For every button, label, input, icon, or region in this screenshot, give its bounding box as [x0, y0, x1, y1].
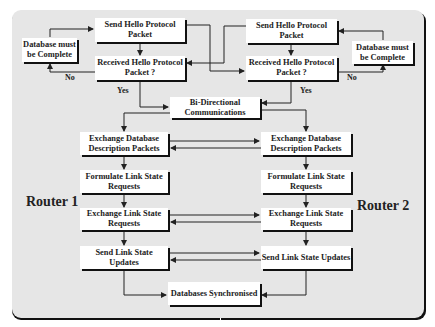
left-send-lsu-text: Send Link State Updates [80, 248, 168, 268]
left-yes-label: Yes [117, 86, 129, 95]
right-exchange-db-desc-text: Exchange Database Description Packets [261, 134, 351, 154]
router-1-label: Router 1 [26, 194, 78, 210]
right-exchange-db-desc-box: Exchange Database Description Packets [261, 132, 351, 155]
left-exchange-lsr-text: Exchange Link State Requests [80, 209, 168, 229]
bidirectional-box: Bi-Directional Communications [170, 97, 260, 118]
left-exchange-db-desc-box: Exchange Database Description Packets [80, 132, 168, 155]
right-send-hello-text: Send Hello Protocol Packet [246, 21, 337, 41]
left-send-hello-box: Send Hello Protocol Packet [95, 18, 185, 42]
left-formulate-lsr-box: Formulate Link State Requests [80, 170, 168, 193]
bidirectional-text: Bi-Directional Communications [170, 98, 260, 118]
right-no-label: No [347, 73, 357, 82]
left-send-lsu-box: Send Link State Updates [80, 246, 168, 269]
right-received-hello-box: Received Hello Protocol Packet ? [246, 56, 337, 80]
left-exchange-lsr-box: Exchange Link State Requests [80, 208, 168, 230]
right-exchange-lsr-text: Exchange Link State Requests [261, 209, 351, 229]
router-2-label: Router 2 [357, 198, 409, 214]
left-send-hello-text: Send Hello Protocol Packet [95, 20, 185, 40]
synchronised-text: Databases Synchronised [171, 289, 258, 299]
right-yes-label: Yes [300, 86, 312, 95]
left-exchange-db-desc-text: Exchange Database Description Packets [80, 134, 168, 154]
left-formulate-lsr-text: Formulate Link State Requests [80, 172, 168, 192]
left-no-label: No [65, 73, 75, 82]
right-db-complete-box: Database must be Complete [352, 41, 413, 64]
right-received-hello-text: Received Hello Protocol Packet ? [246, 58, 337, 78]
left-db-complete-text: Database must be Complete [22, 40, 77, 60]
right-send-lsu-text: Send Link State Updates [262, 253, 351, 263]
synchronised-box: Databases Synchronised [168, 282, 260, 305]
right-formulate-lsr-text: Formulate Link State Requests [261, 172, 351, 192]
right-exchange-lsr-box: Exchange Link State Requests [261, 208, 351, 230]
left-db-complete-box: Database must be Complete [22, 38, 77, 62]
right-send-hello-box: Send Hello Protocol Packet [246, 19, 337, 43]
left-received-hello-text: Received Hello Protocol Packet ? [95, 58, 185, 78]
right-db-complete-text: Database must be Complete [352, 43, 413, 63]
right-formulate-lsr-box: Formulate Link State Requests [261, 170, 351, 193]
right-send-lsu-box: Send Link State Updates [261, 246, 351, 269]
left-received-hello-box: Received Hello Protocol Packet ? [95, 56, 185, 80]
